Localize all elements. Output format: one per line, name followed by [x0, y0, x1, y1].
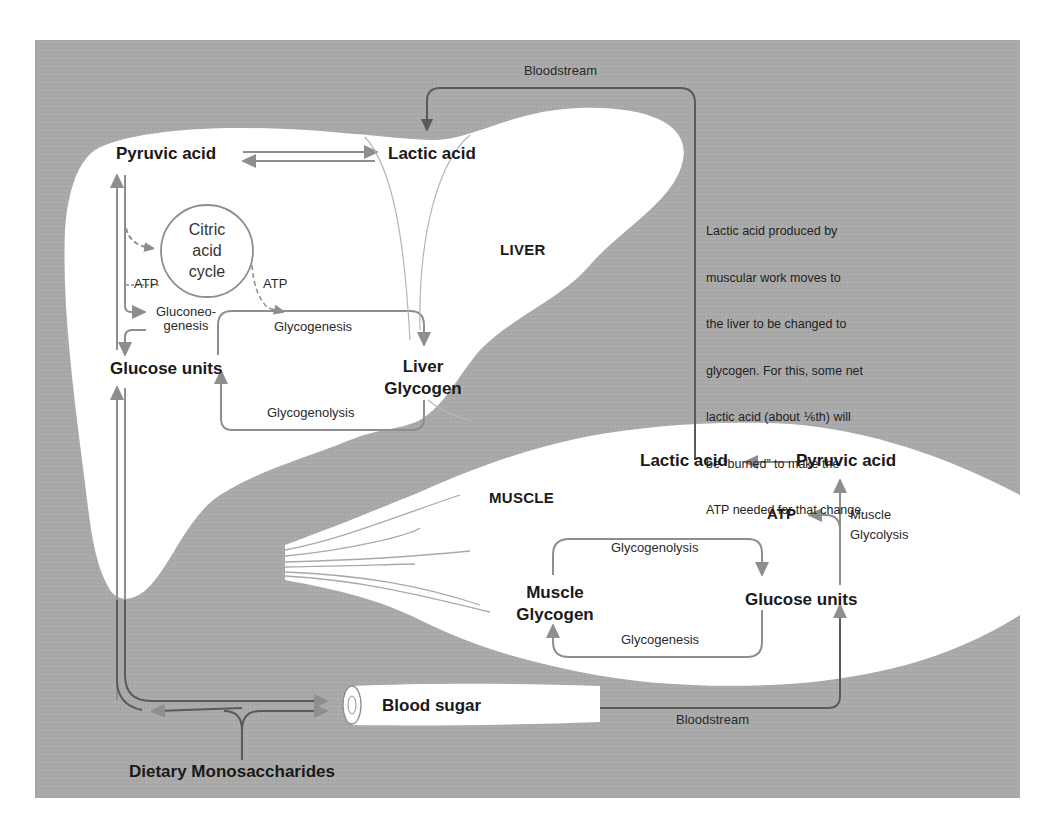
gluconeogenesis-label: Gluconeo- genesis — [150, 305, 222, 334]
muscle-atp-label: ATP — [767, 506, 796, 523]
muscle-glucose-units-label: Glucose units — [745, 591, 857, 610]
liver-atp-left-label: ATP — [134, 277, 158, 291]
liver-atp-right-label: ATP — [263, 277, 287, 291]
muscle-glycolysis-label: Muscle Glycolysis — [850, 505, 909, 545]
liver-lactic-acid-label: Lactic acid — [388, 145, 476, 164]
muscle-lactic-acid-label: Lactic acid — [640, 452, 728, 471]
bloodstream-bottom-label: Bloodstream — [676, 713, 749, 727]
liver-glycogen-label: Liver Glycogen — [378, 356, 468, 400]
liver-glycogenolysis-label: Glycogenolysis — [267, 406, 354, 420]
citric-acid-cycle-label: Citric acid cycle — [172, 219, 242, 282]
muscle-glycogenolysis-label: Glycogenolysis — [611, 541, 698, 555]
liver-organ-label: LIVER — [500, 242, 546, 259]
muscle-organ-label: MUSCLE — [489, 490, 554, 507]
liver-pyruvic-acid-label: Pyruvic acid — [116, 145, 216, 164]
liver-glycogenesis-label: Glycogenesis — [274, 320, 352, 334]
muscle-glycogenesis-label: Glycogenesis — [621, 633, 699, 647]
muscle-pyruvic-acid-label: Pyruvic acid — [796, 452, 896, 471]
liver-glucose-units-label: Glucose units — [110, 360, 222, 379]
bloodstream-top-label: Bloodstream — [524, 64, 597, 78]
blood-sugar-label: Blood sugar — [382, 697, 481, 716]
diagram-graphics — [0, 0, 1055, 833]
cori-cycle-diagram: Pyruvic acid Lactic acid LIVER Citric ac… — [0, 0, 1055, 833]
cori-cycle-annotation: Lactic acid produced by muscular work mo… — [706, 193, 865, 550]
muscle-glycogen-label: Muscle Glycogen — [507, 582, 603, 626]
dietary-monosaccharides-label: Dietary Monosaccharides — [129, 763, 335, 782]
